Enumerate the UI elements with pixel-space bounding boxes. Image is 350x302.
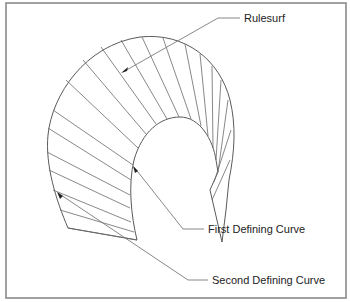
first-curve-label: First Defining Curve xyxy=(208,223,305,235)
ruled-surface xyxy=(47,36,234,242)
rulesurf-diagram: Rulesurf First Defining Curve Second Def… xyxy=(0,0,350,302)
first-curve-callout: First Defining Curve xyxy=(133,166,305,235)
ruling-lines xyxy=(47,37,231,240)
figure-frame xyxy=(6,3,346,298)
second-curve-callout: Second Defining Curve xyxy=(57,192,325,286)
arrow-icon xyxy=(133,166,138,173)
rulesurf-label: Rulesurf xyxy=(244,12,286,24)
second-defining-curve xyxy=(48,36,235,242)
arrow-icon xyxy=(121,67,128,73)
second-curve-label: Second Defining Curve xyxy=(212,274,325,286)
rulesurf-callout: Rulesurf xyxy=(121,12,286,73)
